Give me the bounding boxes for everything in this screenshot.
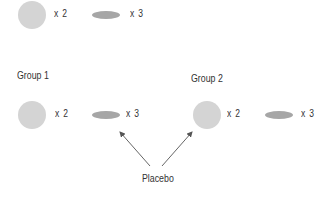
arrow-icon: [0, 0, 328, 197]
placebo-label: Placebo: [142, 173, 174, 184]
